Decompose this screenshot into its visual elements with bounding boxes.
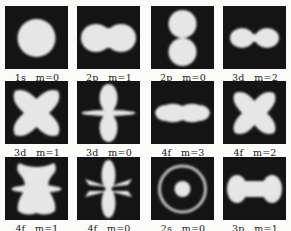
orbital-image bbox=[5, 157, 68, 220]
orbital-label: 3p m=1 bbox=[223, 223, 287, 231]
orbital-image bbox=[223, 6, 286, 69]
orbital-image bbox=[5, 6, 68, 69]
orbital-image bbox=[151, 81, 214, 144]
orbital-image bbox=[151, 157, 214, 220]
orbital-cell-3d-m0: 3d m=0 bbox=[77, 81, 141, 158]
orbital-cell-3d-m2: 3d m=2 bbox=[223, 6, 287, 83]
orbital-image bbox=[77, 6, 140, 69]
orbital-image bbox=[223, 81, 286, 144]
orbital-image bbox=[151, 6, 214, 69]
orbital-label: 4f m=1 bbox=[5, 223, 69, 231]
orbital-cell-4f-m0: 4f m=0 bbox=[77, 157, 141, 231]
orbital-image bbox=[5, 81, 68, 144]
orbital-cell-4f-m1: 4f m=1 bbox=[5, 157, 69, 231]
orbital-label: 4f m=0 bbox=[77, 223, 141, 231]
orbital-cell-3d-m1: 3d m=1 bbox=[5, 81, 69, 158]
orbital-image bbox=[77, 157, 140, 220]
orbital-cell-2s-m0: 2s m=0 bbox=[151, 157, 215, 231]
orbital-label: 2s m=0 bbox=[151, 223, 215, 231]
orbital-image bbox=[77, 81, 140, 144]
orbital-cell-2p-m1: 2p m=1 bbox=[77, 6, 141, 83]
orbital-cell-4f-m3: 4f m=3 bbox=[151, 81, 215, 158]
orbital-cell-1s-m0: 1s m=0 bbox=[5, 6, 69, 83]
orbital-cell-2p-m0: 2p m=0 bbox=[151, 6, 215, 83]
orbital-image bbox=[223, 157, 286, 220]
orbital-cell-3p-m1: 3p m=1 bbox=[223, 157, 287, 231]
orbital-cell-4f-m2: 4f m=2 bbox=[223, 81, 287, 158]
